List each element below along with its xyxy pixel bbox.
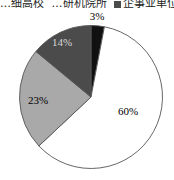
slice-label: 3% xyxy=(90,10,105,22)
slice-label: 23% xyxy=(28,94,48,106)
pie-chart: 3%60%23%14% xyxy=(0,0,174,180)
slice-label: 60% xyxy=(118,105,138,117)
slice-label: 14% xyxy=(52,36,72,48)
